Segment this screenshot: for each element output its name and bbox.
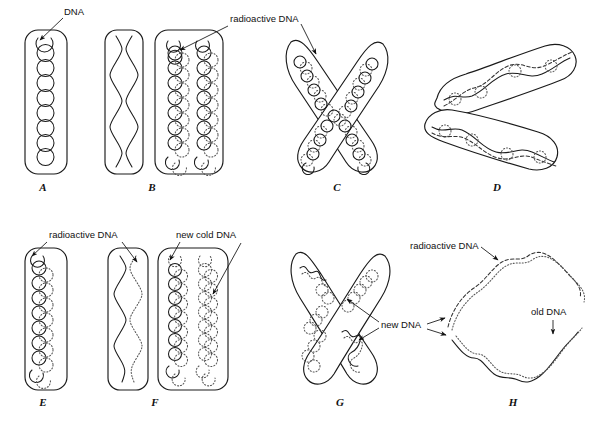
panel-letter-c: C (333, 181, 341, 193)
callout-label-old-dna: old DNA (531, 306, 567, 317)
panel-letter-d: D (492, 181, 501, 193)
callout-label-radioactive-dna-top: radioactive DNA (230, 13, 299, 24)
panel-d-chromatid-lower (425, 110, 558, 170)
panel-letter-f: F (150, 396, 159, 408)
callout-label-dna: DNA (64, 6, 85, 17)
leader-line (427, 329, 446, 335)
callout-old-dna: old DNA (531, 306, 567, 334)
panel-h-dna-radioactive (448, 252, 585, 330)
leader-line (359, 328, 379, 340)
panel-c: C (286, 40, 388, 193)
panel-h: H (448, 252, 585, 408)
panel-h-dna-old (452, 328, 582, 382)
callout-radioactive-dna-h: radioactive DNA (410, 240, 498, 260)
panel-b1-envelope (105, 30, 143, 174)
panel-a: A (25, 30, 67, 193)
figure-canvas: A (0, 0, 597, 423)
panel-d-chromatid-upper (435, 44, 576, 113)
panel-b1 (105, 30, 143, 174)
panel-letter-e: E (38, 396, 46, 408)
leader-line (427, 318, 445, 324)
callout-label-radioactive-dna-h: radioactive DNA (410, 240, 479, 251)
panel-f: F (150, 248, 228, 408)
leader-line (481, 247, 498, 260)
panel-letter-b: B (147, 181, 155, 193)
callout-label-radioactive-dna-bottom: radioactive DNA (49, 229, 118, 240)
panel-b-envelope (155, 30, 223, 174)
callout-label-new-cold-dna: new cold DNA (176, 229, 237, 240)
panel-f1 (108, 248, 148, 390)
panel-letter-a: A (38, 181, 46, 193)
panel-b: B (147, 30, 223, 193)
panel-letter-g: G (336, 396, 344, 408)
panel-e: E (25, 248, 67, 408)
panel-d: D (425, 44, 576, 193)
panel-f1-envelope (108, 248, 148, 390)
panel-letter-h: H (508, 396, 518, 408)
callout-label-new-dna: new DNA (381, 319, 422, 330)
dna-replication-figure: A (0, 0, 597, 423)
